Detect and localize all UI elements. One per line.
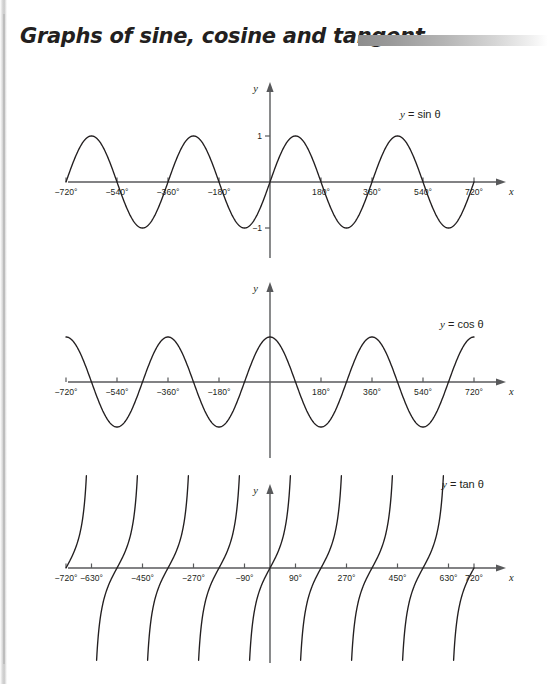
svg-text:360°: 360° (363, 187, 381, 197)
svg-text:−360°: −360° (157, 387, 180, 397)
svg-text:270°: 270° (338, 573, 356, 583)
svg-text:360°: 360° (363, 387, 381, 397)
svg-text:−90°: −90° (235, 573, 253, 583)
svg-text:90°: 90° (289, 573, 302, 583)
svg-text:540°: 540° (414, 187, 432, 197)
svg-text:450°: 450° (389, 573, 407, 583)
svg-text:−180°: −180° (208, 187, 231, 197)
svg-text:x: x (508, 386, 514, 397)
svg-text:−720°: −720° (55, 387, 78, 397)
svg-text:−360°: −360° (157, 187, 180, 197)
svg-text:720°: 720° (465, 387, 483, 397)
svg-text:−540°: −540° (106, 387, 129, 397)
svg-text:540°: 540° (414, 387, 432, 397)
chart-sine: yx−720°−540°−360°−180°180°360°540°720°1−… (0, 80, 548, 260)
svg-text:−720°: −720° (55, 187, 78, 197)
svg-text:−630°: −630° (80, 573, 103, 583)
chart-tangent: yx−720°−630°−450°−270°−90°90°270°450°630… (0, 465, 548, 665)
svg-text:1: 1 (257, 131, 262, 141)
svg-text:y = sin θ: y = sin θ (399, 108, 441, 120)
page-canvas: Graphs of sine, cosine and tangent yx−72… (0, 0, 548, 684)
svg-text:180°: 180° (312, 387, 330, 397)
svg-text:x: x (508, 572, 514, 583)
svg-text:y = cos θ: y = cos θ (439, 318, 484, 330)
svg-text:630°: 630° (440, 573, 458, 583)
svg-text:y: y (252, 485, 258, 496)
svg-text:y: y (252, 83, 258, 94)
svg-text:−540°: −540° (106, 187, 129, 197)
svg-text:−180°: −180° (208, 387, 231, 397)
chart-cosine: yx−720°−540°−360°−180°180°360°540°720°y … (0, 280, 548, 460)
svg-text:−720°: −720° (55, 573, 78, 583)
svg-text:−1: −1 (252, 223, 262, 233)
svg-text:x: x (508, 186, 514, 197)
svg-text:y = tan θ: y = tan θ (441, 478, 484, 490)
svg-text:720°: 720° (465, 187, 483, 197)
svg-text:−270°: −270° (182, 573, 205, 583)
svg-text:−450°: −450° (131, 573, 154, 583)
svg-text:y: y (252, 283, 258, 294)
svg-text:180°: 180° (312, 187, 330, 197)
plots-container: yx−720°−540°−360°−180°180°360°540°720°1−… (0, 0, 548, 684)
